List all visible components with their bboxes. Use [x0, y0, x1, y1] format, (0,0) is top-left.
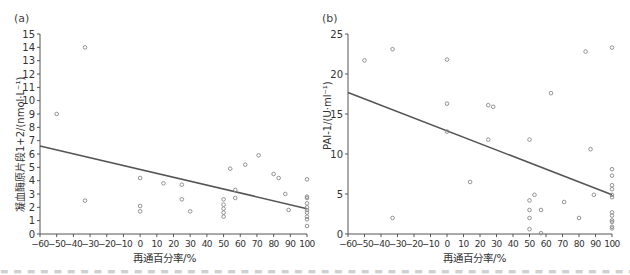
x-tick-label: −60	[31, 239, 49, 249]
data-point	[222, 198, 226, 202]
x-tick-label: −10	[422, 239, 440, 249]
data-point	[162, 182, 166, 186]
x-tick-label: 50	[524, 239, 535, 249]
y-tick-label: 5	[29, 162, 35, 173]
x-tick-label: 40	[202, 239, 213, 249]
data-point	[445, 102, 449, 106]
x-tick-label: 20	[168, 239, 179, 249]
y-tick-label: 7	[29, 135, 35, 146]
data-point	[180, 198, 184, 202]
data-point	[577, 216, 581, 220]
x-tick-label: −20	[98, 239, 116, 249]
data-point	[533, 193, 537, 197]
x-tick-label: 60	[541, 239, 552, 249]
y-tick-label: 15	[22, 29, 35, 40]
y-tick-label: 15	[330, 109, 343, 120]
data-point	[305, 224, 309, 228]
y-tick-label: 11	[22, 82, 35, 93]
data-point	[138, 210, 142, 214]
data-point	[610, 174, 614, 178]
y-tick-label: 12	[22, 69, 35, 80]
data-point	[584, 50, 588, 54]
data-point	[589, 147, 593, 151]
data-point	[610, 195, 614, 199]
x-tick-label: 80	[268, 239, 279, 249]
trend-line	[40, 146, 307, 209]
x-tick-label: −10	[115, 239, 133, 249]
data-point	[55, 112, 59, 116]
x-tick-label: 0	[444, 239, 450, 249]
data-point	[138, 176, 142, 180]
data-point	[287, 208, 291, 212]
data-point	[391, 216, 395, 220]
data-point	[528, 199, 532, 203]
data-point	[272, 172, 276, 176]
y-tick-label: 0	[29, 229, 35, 240]
y-tick-label: 14	[22, 42, 35, 53]
x-tick-label: 20	[475, 239, 486, 249]
data-point	[305, 178, 309, 182]
y-tick-label: 0	[337, 229, 343, 240]
data-point	[539, 208, 543, 212]
data-point	[83, 46, 87, 50]
data-point	[188, 210, 192, 214]
x-tick-label: −30	[81, 239, 99, 249]
scatter-plot-a: 0123456789101112131415−60−50−40−30−20−10…	[0, 0, 315, 275]
y-tick-label: 9	[29, 109, 35, 120]
x-tick-label: −40	[65, 239, 83, 249]
data-point	[83, 199, 87, 203]
chart-panel-b: (b) PAI-1/(U·ml⁻¹) 再通百分率/% 0510152025−60…	[310, 0, 630, 275]
x-tick-label: 70	[252, 239, 263, 249]
data-point	[233, 196, 237, 200]
x-tick-label: 90	[285, 239, 296, 249]
x-tick-label: 30	[185, 239, 196, 249]
data-point	[284, 192, 288, 196]
y-tick-label: 3	[29, 189, 35, 200]
data-point	[528, 216, 532, 220]
y-tick-label: 20	[330, 69, 343, 80]
y-tick-label: 5	[337, 189, 343, 200]
data-point	[363, 59, 367, 63]
data-point	[610, 167, 614, 171]
y-tick-label: 13	[22, 55, 35, 66]
chart-panel-a: (a) 凝血酶原片段1+2/(nmol·L⁻¹) 再通百分率/% 0123456…	[0, 0, 315, 275]
x-tick-label: 30	[491, 239, 502, 249]
y-tick-label: 2	[29, 202, 35, 213]
data-point	[528, 227, 532, 231]
data-point	[610, 46, 614, 50]
data-point	[445, 58, 449, 62]
data-point	[486, 103, 490, 107]
y-tick-label: 10	[22, 95, 35, 106]
data-point	[610, 183, 614, 187]
y-tick-label: 6	[29, 149, 35, 160]
data-point	[222, 211, 226, 215]
data-point	[528, 208, 532, 212]
data-point	[277, 176, 281, 180]
data-point	[562, 200, 566, 204]
figure-caption-cropped: ▬ ▬ ▬ ▬ ▬ ▬ ▬ ▬ ▬ ▬ ▬ ▬ ▬ ▬ ▬ ▬ ▬ ▬ ▬ ▬ …	[0, 266, 630, 275]
data-point	[491, 105, 495, 109]
x-tick-label: 40	[508, 239, 519, 249]
x-tick-label: 90	[590, 239, 601, 249]
y-tick-label: 10	[330, 149, 343, 160]
data-point	[222, 207, 226, 211]
data-point	[305, 202, 309, 206]
x-tick-label: 60	[235, 239, 246, 249]
y-tick-label: 8	[29, 122, 35, 133]
x-tick-label: 10	[152, 239, 163, 249]
data-point	[391, 47, 395, 51]
scatter-plot-b: 0510152025−60−50−40−30−20−10010203040506…	[310, 0, 630, 275]
data-point	[228, 167, 232, 171]
x-tick-label: 10	[458, 239, 469, 249]
y-tick-label: 25	[330, 29, 343, 40]
x-tick-label: 0	[138, 239, 144, 249]
data-point	[528, 138, 532, 142]
data-point	[243, 163, 247, 167]
data-point	[257, 154, 261, 158]
data-point	[222, 203, 226, 207]
x-tick-label: −50	[48, 239, 66, 249]
data-point	[610, 187, 614, 191]
y-tick-label: 4	[29, 175, 35, 186]
data-point	[180, 183, 184, 187]
data-point	[138, 204, 142, 208]
